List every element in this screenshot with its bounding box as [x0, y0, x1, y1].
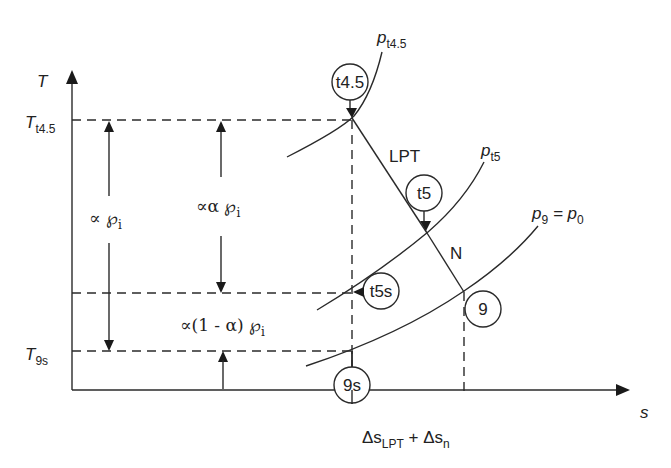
state-9s-bubble-svg: 9s: [0, 0, 671, 468]
